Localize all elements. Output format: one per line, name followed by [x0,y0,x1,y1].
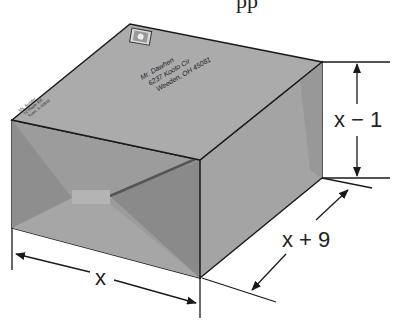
front-tape-patch [72,190,110,204]
height-label: x − 1 [334,107,382,132]
arrow-down-left-icon [252,254,286,290]
box-diagram: pp Mr. Dawhen 6237 Kooto Cir Weeden, OH … [0,0,398,334]
arrow-left-icon [16,254,90,272]
postage-stamp [130,28,152,45]
cropped-heading-text: pp [236,0,258,13]
height-dimension: x − 1 [322,62,390,178]
arrow-right-icon [114,280,196,303]
depth-label: x + 9 [282,227,330,252]
width-label: x [95,265,106,290]
arrow-up-right-icon [316,190,348,220]
